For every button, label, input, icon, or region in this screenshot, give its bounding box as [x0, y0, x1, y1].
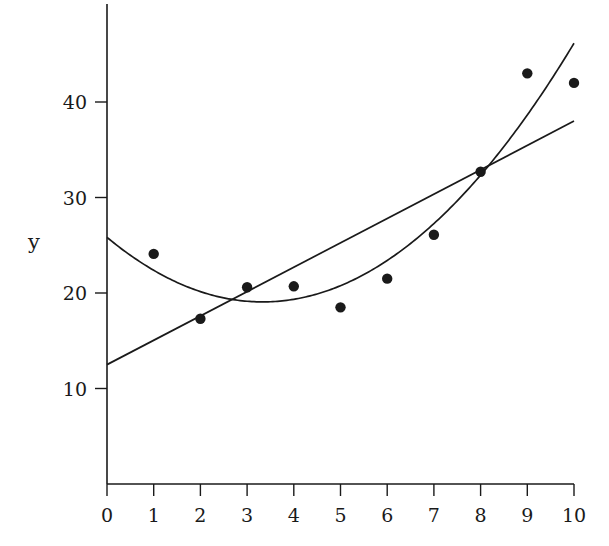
y-tick-label: 20 [63, 282, 87, 304]
x-tick-label: 5 [334, 504, 346, 526]
x-tick-label: 4 [288, 504, 300, 526]
data-point [289, 281, 299, 291]
data-point [335, 302, 345, 312]
data-point [522, 68, 532, 78]
chart-canvas: 01234567891010203040 y [0, 0, 609, 546]
x-tick-label: 8 [475, 504, 487, 526]
plot-area [107, 43, 579, 364]
y-tick-label: 10 [63, 378, 87, 400]
y-tick-label: 40 [63, 91, 87, 113]
x-tick-label: 2 [194, 504, 206, 526]
x-tick-label: 9 [521, 504, 533, 526]
x-tick-label: 10 [562, 504, 586, 526]
x-tick-label: 7 [428, 504, 440, 526]
axes: 01234567891010203040 [63, 4, 586, 526]
y-tick-label: 30 [63, 187, 87, 209]
data-point [382, 273, 392, 283]
x-tick-label: 6 [381, 504, 393, 526]
quadratic-fit-curve [107, 43, 574, 302]
y-axis-label: y [27, 230, 40, 254]
linear-fit-line [107, 121, 574, 365]
data-point [149, 249, 159, 259]
data-point [569, 78, 579, 88]
data-point [429, 230, 439, 240]
x-tick-label: 3 [241, 504, 253, 526]
x-tick-label: 0 [101, 504, 113, 526]
x-tick-label: 1 [148, 504, 160, 526]
